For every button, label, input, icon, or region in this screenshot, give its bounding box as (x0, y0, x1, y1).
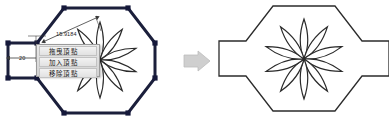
menu-item-add-vertex[interactable]: 加入頂點 (39, 57, 97, 67)
menu-item-drag-vertex[interactable]: 拖曳頂點 (39, 46, 97, 56)
screenshot-canvas: 15.9184 20 拖曳頂點 加入頂點 移除頂點 (0, 0, 389, 121)
vertex-handle[interactable] (61, 110, 66, 115)
dimension-diagonal-label: 15.9184 (56, 31, 77, 37)
vertex-context-menu[interactable]: 拖曳頂點 加入頂點 移除頂點 (36, 44, 100, 77)
vertex-handle[interactable] (125, 5, 130, 10)
menu-item-remove-vertex[interactable]: 移除頂點 (39, 68, 97, 78)
vertex-handle[interactable] (152, 75, 157, 80)
vertex-handle[interactable] (152, 40, 157, 45)
transition-arrow-group (184, 51, 210, 71)
vertex-handle[interactable] (5, 40, 10, 45)
vertex-handle[interactable] (61, 5, 66, 10)
vertex-handle[interactable] (5, 75, 10, 80)
right-arrow-icon (184, 51, 210, 71)
dimension-width-label: 20 (19, 55, 25, 61)
right-figure-group[interactable] (219, 6, 389, 111)
vertex-handle[interactable] (125, 110, 130, 115)
